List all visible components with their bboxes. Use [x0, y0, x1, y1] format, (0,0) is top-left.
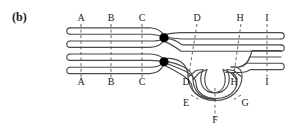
- strand-2-left-arm-inner: [70, 41, 163, 47]
- inversion-loop-inner-right2: [219, 70, 225, 92]
- label-bottom-H: H: [230, 76, 237, 87]
- label-top-D: D: [193, 12, 200, 23]
- strand-1-left-cap: [67, 28, 70, 34]
- inversion-loop-outer2-left: [166, 61, 215, 99]
- upper-chromatid-pair: [67, 28, 284, 51]
- strand-1-left-arm-inner: [70, 34, 163, 37]
- label-top-C: C: [139, 12, 146, 23]
- marker-labels-top: A B C D H I: [77, 12, 268, 23]
- strand-1-right-cap: [281, 33, 284, 39]
- dash-line-G: [233, 95, 241, 100]
- inversion-loop-inner-left2: [205, 70, 211, 92]
- marker-labels-loop: E G F: [183, 97, 249, 125]
- strand-4-left-cap: [67, 67, 70, 73]
- inversion-loop-inner-bottom2: [211, 92, 219, 93]
- strand-2-right-cap: [281, 45, 284, 51]
- strand-3-right-arm: [231, 63, 281, 67]
- strand-2-left-cap: [67, 41, 70, 47]
- inversion-loop-mid-left: [166, 63, 215, 98]
- strand-2-left-arm: [70, 39, 163, 41]
- label-top-B: B: [108, 12, 115, 23]
- strand-3-left-cap: [67, 54, 70, 60]
- label-top-A: A: [77, 12, 85, 23]
- inversion-loop-mid2-left: [165, 66, 215, 100]
- strand-4-left-arm: [70, 63, 163, 67]
- strand-3-left-arm: [70, 54, 163, 59]
- strand-3-left-arm-inner: [70, 60, 163, 61]
- label-bottom-B: B: [108, 76, 115, 87]
- strand-3-right-cap: [281, 63, 284, 69]
- label-loop-F: F: [212, 114, 218, 125]
- strand-1-right-arm: [165, 33, 281, 35]
- centromere-upper-dot: [159, 33, 168, 42]
- figure-panel: (b): [0, 0, 296, 127]
- label-bottom-I: I: [265, 76, 268, 87]
- centromere-lower-dot: [159, 57, 168, 66]
- label-loop-G: G: [241, 97, 248, 108]
- strand-2-right-arm-inner: [165, 42, 281, 52]
- strand-1-right-arm-inner: [166, 37, 281, 39]
- label-loop-E: E: [183, 97, 189, 108]
- label-top-H: H: [236, 12, 243, 23]
- label-bottom-D: D: [182, 76, 189, 87]
- label-top-I: I: [265, 12, 268, 23]
- label-bottom-C: C: [139, 76, 146, 87]
- strand-1-left-arm: [70, 28, 163, 35]
- strand-2-right-arm: [166, 39, 281, 45]
- label-bottom-A: A: [77, 76, 85, 87]
- chromosome-inversion-diagram: A B C D H I A B C D H I E G F: [0, 0, 296, 127]
- strand-4-right-arm: [239, 57, 281, 67]
- centromeres: [159, 33, 168, 66]
- lower-chromatid-pair: [67, 51, 284, 101]
